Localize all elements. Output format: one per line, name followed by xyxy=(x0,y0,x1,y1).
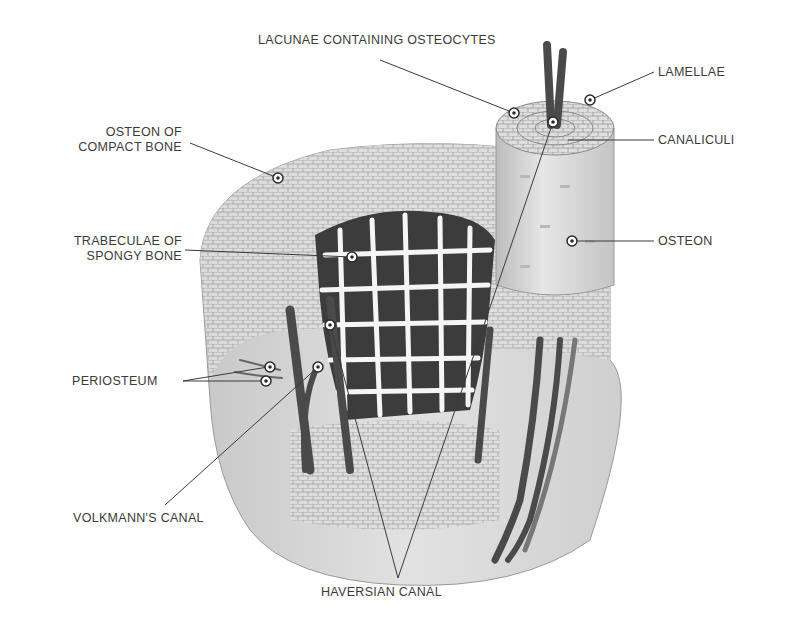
label-trabeculae-line1: TRABECULAE OF xyxy=(74,234,182,249)
label-periosteum: PERIOSTEUM xyxy=(72,374,158,389)
label-osteon-compact-line1: OSTEON OF xyxy=(78,125,182,140)
bone-diagram xyxy=(0,0,798,632)
osteon-cylinder xyxy=(496,45,614,295)
label-haversian: HAVERSIAN CANAL xyxy=(321,585,442,600)
label-canaliculi: CANALICULI xyxy=(658,133,735,148)
label-osteon: OSTEON xyxy=(658,234,713,249)
label-osteon-compact-line2: COMPACT BONE xyxy=(78,140,182,155)
label-trabeculae-line2: SPONGY BONE xyxy=(74,249,182,264)
label-trabeculae: TRABECULAE OF SPONGY BONE xyxy=(74,234,182,264)
label-lamellae: LAMELLAE xyxy=(658,65,725,80)
label-volkmann: VOLKMANN'S CANAL xyxy=(73,511,204,526)
label-osteon-compact-bone: OSTEON OF COMPACT BONE xyxy=(78,125,182,155)
label-lacunae: LACUNAE CONTAINING OSTEOCYTES xyxy=(258,33,496,48)
